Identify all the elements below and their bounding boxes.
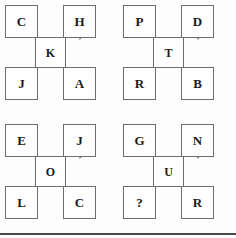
cluster-top-left: C H K J A <box>0 0 118 119</box>
cell-top-right: N <box>181 124 214 157</box>
cell-center: O <box>35 156 66 187</box>
cell-center: K <box>35 37 66 68</box>
cell-top-left: G <box>123 124 156 157</box>
cluster-bottom-right: G N U ? R <box>118 119 236 238</box>
cell-bottom-right: B <box>181 67 214 100</box>
cell-top-right: H <box>63 5 96 38</box>
cluster-top-right: P D T R B <box>118 0 236 119</box>
cell-center: T <box>153 37 184 68</box>
cell-bottom-left: L <box>5 186 38 219</box>
cell-answer-blank: ? <box>123 186 156 219</box>
cell-top-left: C <box>5 5 38 38</box>
bottom-divider <box>0 233 236 235</box>
cell-bottom-right: C <box>63 186 96 219</box>
cell-top-left: P <box>123 5 156 38</box>
puzzle-diagram: C H K J A P D T R B E J O L C G N U ? R <box>0 0 236 238</box>
cell-bottom-right: A <box>63 67 96 100</box>
cell-bottom-left: R <box>123 67 156 100</box>
cell-top-left: E <box>5 124 38 157</box>
cell-top-right: J <box>63 124 96 157</box>
cell-center: U <box>153 156 184 187</box>
cell-top-right: D <box>181 5 214 38</box>
cluster-bottom-left: E J O L C <box>0 119 118 238</box>
cell-bottom-left: J <box>5 67 38 100</box>
cell-bottom-right: R <box>181 186 214 219</box>
